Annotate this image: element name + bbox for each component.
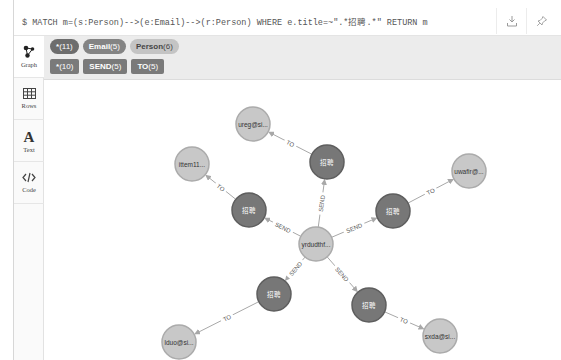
sidebar-item-text[interactable]: A Text — [14, 120, 44, 162]
node-caption: ittem11... — [179, 161, 205, 168]
text-icon: A — [22, 129, 36, 143]
node-label-all-pill[interactable]: *(11) — [50, 39, 79, 54]
sidebar-item-label: Rows — [22, 102, 37, 109]
relationship-send[interactable]: SEND — [332, 218, 377, 237]
relationship-send[interactable]: SEND — [327, 257, 357, 292]
node-caption: 招聘 — [320, 158, 334, 167]
email-node[interactable]: 招聘 — [352, 288, 386, 322]
node-label-person-pill[interactable]: Person(6) — [130, 39, 179, 54]
view-sidebar: Graph Rows A Text Code — [14, 36, 44, 360]
sidebar-item-rows[interactable]: Rows — [14, 78, 44, 120]
email-node[interactable]: 招聘 — [257, 277, 291, 311]
sidebar-item-label: Text — [23, 146, 34, 153]
relationship-to[interactable]: TO — [269, 132, 312, 154]
person-node[interactable]: ittem11... — [175, 147, 209, 181]
graph-icon — [23, 45, 35, 58]
query-bar: $ MATCH m=(s:Person)-->(e:Email)-->(r:Pe… — [14, 6, 561, 36]
node-caption: lduo@si... — [165, 339, 194, 346]
query-text[interactable]: $ MATCH m=(s:Person)-->(e:Email)-->(r:Pe… — [22, 15, 428, 28]
relationship-to[interactable]: TO — [206, 175, 236, 199]
code-icon — [22, 172, 36, 183]
node-caption: uwafir@... — [454, 168, 484, 175]
person-node[interactable]: lduo@si... — [162, 325, 196, 359]
graph-canvas[interactable]: SENDSENDSENDSENDSENDTOTOTOTOTO yrdudthf.… — [44, 80, 561, 360]
relationship-to[interactable]: TO — [385, 312, 424, 329]
relationship-label: SEND — [345, 222, 363, 234]
sidebar-item-label: Code — [22, 186, 36, 193]
node-caption: 招聘 — [386, 207, 400, 216]
email-node[interactable]: 招聘 — [310, 145, 344, 179]
node-caption: yrdudthf... — [302, 241, 331, 249]
legend-bar: *(11) Email(5) Person(6) *(10) SEND(5) T… — [44, 36, 561, 80]
node-caption: ureg@si... — [238, 121, 268, 129]
rel-type-to-pill[interactable]: TO(5) — [131, 59, 164, 74]
node-caption: 招聘 — [267, 290, 281, 299]
relationship-send[interactable]: SEND — [265, 218, 301, 236]
relationship-to[interactable]: TO — [195, 302, 259, 334]
node-caption: 招聘 — [242, 206, 256, 215]
node-label-legend: *(11) Email(5) Person(6) — [50, 39, 179, 54]
pin-icon — [536, 15, 548, 27]
relationship-label: SEND — [318, 194, 326, 212]
sidebar-item-graph[interactable]: Graph — [14, 36, 44, 78]
pin-button[interactable] — [526, 8, 556, 34]
table-icon — [23, 88, 36, 99]
svg-text:A: A — [24, 129, 35, 143]
download-icon — [506, 15, 518, 27]
person-node[interactable]: ureg@si... — [236, 107, 270, 141]
person-node[interactable]: sxda@si... — [423, 319, 457, 353]
node-caption: sxda@si... — [425, 333, 456, 340]
graph-visualization[interactable]: SENDSENDSENDSENDSENDTOTOTOTOTO yrdudthf.… — [44, 80, 561, 360]
email-node[interactable]: 招聘 — [376, 194, 410, 228]
relationship-to[interactable]: TO — [408, 179, 453, 203]
nodes-layer: yrdudthf...招聘招聘招聘招聘招聘ureg@si...ittem11..… — [162, 107, 486, 359]
person-node[interactable]: uwafir@... — [452, 154, 486, 188]
relationship-send[interactable]: SEND — [316, 180, 327, 227]
email-node[interactable]: 招聘 — [232, 193, 266, 227]
node-caption: 招聘 — [362, 301, 376, 310]
node-label-email-pill[interactable]: Email(5) — [83, 39, 126, 54]
relationship-send[interactable]: SEND — [285, 257, 306, 280]
rel-type-send-pill[interactable]: SEND(5) — [83, 59, 127, 74]
person-node[interactable]: yrdudthf... — [299, 227, 333, 261]
rel-type-all-pill[interactable]: *(10) — [50, 59, 79, 74]
sidebar-item-code[interactable]: Code — [14, 162, 44, 204]
sidebar-item-label: Graph — [21, 61, 37, 68]
relationship-type-legend: *(10) SEND(5) TO(5) — [50, 59, 164, 74]
download-button[interactable] — [496, 8, 526, 34]
